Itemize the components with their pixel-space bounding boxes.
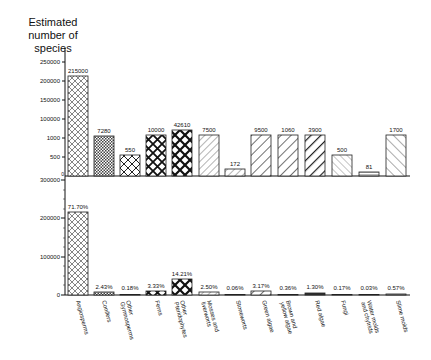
bar-brown-yellow-algae xyxy=(278,295,298,296)
bar-other-gymnosperms xyxy=(120,155,140,176)
value-label: 81 xyxy=(366,164,373,170)
bar-slime-molds xyxy=(386,135,406,176)
bar-fungi xyxy=(332,295,352,296)
percent-label: 71.70% xyxy=(68,204,89,210)
value-label: 10000 xyxy=(148,127,165,133)
percent-label: 0.18% xyxy=(121,285,139,291)
percent-label: 3.33% xyxy=(147,283,165,289)
category-label: Mosses and liverworts xyxy=(200,300,220,336)
value-label: 215000 xyxy=(68,68,89,74)
top-tick-0: 0 xyxy=(61,171,64,177)
bottom-tick-300000: 300000 xyxy=(40,177,61,183)
bar-water-molds xyxy=(359,295,379,296)
top-tick-100000: 100000 xyxy=(40,116,61,122)
top-tick-250000: 250000 xyxy=(40,59,61,65)
bar-other-pteridophytes xyxy=(172,279,192,295)
bar-ferns xyxy=(146,291,166,295)
top-tick-500: 500 xyxy=(50,154,61,160)
species-bar-chart: 250000 200000 150000 100000 1000 500 0 xyxy=(0,0,431,360)
top-tick-1000: 1000 xyxy=(47,135,61,141)
bar-brown-yellow-algae xyxy=(278,135,298,176)
value-label: 550 xyxy=(125,147,136,153)
percent-label: 1.30% xyxy=(306,284,324,290)
value-label: 7280 xyxy=(97,128,111,134)
category-label: Angiosperms xyxy=(75,300,90,335)
category-label: Water molds and chytrids xyxy=(360,300,381,337)
bar-ferns xyxy=(146,135,166,176)
bar-mosses xyxy=(199,135,219,176)
bar-conifers xyxy=(94,136,114,176)
bar-water-molds xyxy=(359,172,379,176)
bar-stoneworts xyxy=(225,169,245,176)
top-y-ticks: 250000 200000 150000 100000 1000 500 0 xyxy=(40,59,65,177)
top-tick-150000: 150000 xyxy=(40,97,61,103)
bar-fungi xyxy=(332,155,352,176)
top-panel: 250000 200000 150000 100000 1000 500 0 xyxy=(40,48,410,177)
bar-conifers xyxy=(94,292,114,295)
bottom-panel: 300000 200000 100000 0 71.70% 2.43% xyxy=(40,176,410,298)
top-value-labels: 215000 7280 550 10000 42610 7500 172 950… xyxy=(68,68,403,170)
category-label: Brown and yellow algae xyxy=(279,300,299,336)
category-label: Other Gymnosperms xyxy=(119,300,141,341)
bottom-tick-100000: 100000 xyxy=(40,254,61,260)
percent-label: 0.06% xyxy=(226,285,244,291)
value-label: 9500 xyxy=(254,127,268,133)
category-label: Other Pteridophytes xyxy=(173,300,194,339)
bar-red-algae xyxy=(305,135,325,176)
category-label: Conifers xyxy=(101,300,113,323)
value-label: 3900 xyxy=(308,127,322,133)
bar-other-pteridophytes xyxy=(172,130,192,176)
category-label: Red algae xyxy=(314,300,327,329)
value-label: 1700 xyxy=(389,127,403,133)
bar-other-gymnosperms xyxy=(120,295,140,296)
bottom-percent-labels: 71.70% 2.43% 0.18% 3.33% 14.21% 2.50% 0.… xyxy=(68,204,405,291)
bottom-tick-0: 0 xyxy=(57,292,61,298)
percent-label: 0.17% xyxy=(333,285,351,291)
percent-label: 0.57% xyxy=(387,285,405,291)
percent-label: 3.17% xyxy=(252,283,270,289)
bottom-y-ticks: 300000 200000 100000 0 xyxy=(40,177,65,298)
bar-green-algae xyxy=(251,135,271,176)
value-label: 1060 xyxy=(281,127,295,133)
bar-green-algae xyxy=(251,291,271,295)
bar-angiosperms xyxy=(68,212,88,295)
percent-label: 2.50% xyxy=(200,284,218,290)
value-label: 7500 xyxy=(202,127,216,133)
category-label: Ferns xyxy=(154,300,164,316)
value-label: 42610 xyxy=(174,122,191,128)
bar-slime-molds xyxy=(386,294,406,295)
percent-label: 14.21% xyxy=(172,271,193,277)
bar-red-algae xyxy=(305,293,325,295)
bar-mosses xyxy=(199,292,219,295)
category-label: Slime molds xyxy=(395,300,409,333)
category-label: Green algae xyxy=(261,300,276,334)
value-label: 172 xyxy=(230,161,241,167)
percent-label: 0.03% xyxy=(360,285,378,291)
x-category-labels: Angiosperms Conifers Other Gymnosperms F… xyxy=(75,300,409,341)
category-label: Fungi xyxy=(340,300,350,316)
bar-angiosperms xyxy=(68,76,88,176)
bar-stoneworts xyxy=(225,295,245,296)
percent-label: 2.43% xyxy=(95,284,113,290)
percent-label: 0.36% xyxy=(279,285,297,291)
top-tick-200000: 200000 xyxy=(40,78,61,84)
category-label: Stoneworts xyxy=(235,300,249,331)
value-label: 500 xyxy=(337,147,348,153)
bottom-tick-200000: 200000 xyxy=(40,215,61,221)
bottom-bars xyxy=(68,212,406,295)
